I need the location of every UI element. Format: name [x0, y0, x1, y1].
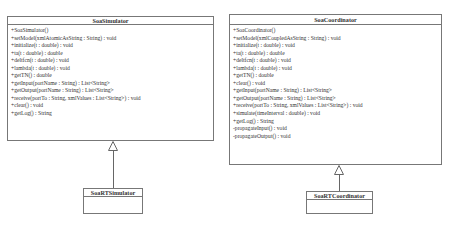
- operation: +clear() : void: [233, 80, 441, 88]
- operation: +deltfcn(t : double) : void: [233, 57, 441, 65]
- class-soa-rt-coordinator: SoaRTCoordinator: [306, 191, 373, 214]
- operation: +clear() : void: [11, 102, 213, 110]
- operation: +getOutput(portName : String) : List<Str…: [233, 95, 441, 103]
- operations-list: +SoaCoordinator() +setModel(xmlCoupledAs…: [230, 25, 441, 140]
- operation: +initialize(t : double) : void: [233, 42, 441, 50]
- operation: +initialize(t : double) : void: [11, 42, 213, 50]
- operation: +receive(portTo : String, xmlValues : Li…: [233, 102, 441, 110]
- operation: +simulate(timeInterval : double) : void: [233, 110, 441, 118]
- class-soa-coordinator: SoaCoordinator +SoaCoordinator() +setMod…: [229, 14, 442, 165]
- inheritance-line: [339, 175, 340, 191]
- operation: +lambda(t : double) : void: [233, 65, 441, 73]
- operation: -propagateInput() : void: [233, 125, 441, 133]
- operation: +setModel(xmlCoupledAsString : String) :…: [233, 35, 441, 43]
- operation: +lambda(t : double) : void: [11, 65, 213, 73]
- operation: +SoaCoordinator(): [233, 27, 441, 35]
- class-name: SoaRTCoordinator: [307, 192, 372, 200]
- class-soa-simulator: SoaSimulator +SoaSimulator() +setModel(x…: [7, 16, 214, 141]
- operation: +getTN() : double: [233, 72, 441, 80]
- operation: +deltfcn(t : double) : void: [11, 57, 213, 65]
- class-name: SoaCoordinator: [230, 15, 441, 25]
- operation: +receive(portTo : String, xmlValues : Li…: [11, 95, 213, 103]
- class-name: SoaRTSimulator: [84, 189, 142, 197]
- operation: +ta(t : double) : double: [11, 50, 213, 58]
- inheritance-line: [113, 151, 114, 188]
- operation: +getInput(portName : String) : List<Stri…: [11, 80, 213, 88]
- operation: +getInput(portName : String) : List<Stri…: [233, 87, 441, 95]
- operation: +getLog() : String: [233, 118, 441, 126]
- operation: +getTN() : double: [11, 72, 213, 80]
- operation: +getOutput(portName : String) : List<Str…: [11, 87, 213, 95]
- operation: +SoaSimulator(): [11, 27, 213, 35]
- class-name: SoaSimulator: [8, 17, 213, 25]
- operation: +ta(t : double) : double: [233, 50, 441, 58]
- operation: +getLog() : String: [11, 110, 213, 118]
- operations-list: +SoaSimulator() +setModel(xmlAtomicAsStr…: [8, 25, 213, 118]
- operation: -propagateOutput() : void: [233, 133, 441, 141]
- class-soa-rt-simulator: SoaRTSimulator: [83, 188, 143, 214]
- operation: +setModel(xmlAtomicAsString : String) : …: [11, 35, 213, 43]
